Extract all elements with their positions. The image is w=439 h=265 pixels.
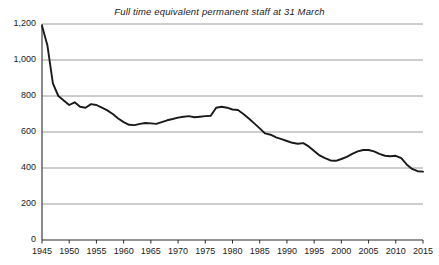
- x-tick-label-1975: 1975: [190, 246, 220, 256]
- gridlines: [42, 24, 423, 204]
- y-tick-label-1200: 1,200: [2, 18, 36, 28]
- x-tick-label-1970: 1970: [163, 246, 193, 256]
- y-tick-label-0: 0: [2, 234, 36, 244]
- x-tick-label-1995: 1995: [299, 246, 329, 256]
- x-tick-label-2010: 2010: [381, 246, 411, 256]
- data-series-group: [42, 26, 423, 172]
- x-tick-label-1985: 1985: [245, 246, 275, 256]
- series-line: [42, 26, 423, 172]
- y-tick-label-400: 400: [2, 162, 36, 172]
- plot-area: [0, 0, 439, 265]
- x-tick-label-1990: 1990: [272, 246, 302, 256]
- x-tick-label-2005: 2005: [354, 246, 384, 256]
- x-tick-label-1960: 1960: [109, 246, 139, 256]
- x-tick-label-1955: 1955: [81, 246, 111, 256]
- x-tick-label-1965: 1965: [136, 246, 166, 256]
- x-tick-label-2015: 2015: [408, 246, 438, 256]
- y-tick-label-600: 600: [2, 126, 36, 136]
- y-tick-label-800: 800: [2, 90, 36, 100]
- x-tick-label-2000: 2000: [326, 246, 356, 256]
- x-tick-label-1980: 1980: [218, 246, 248, 256]
- y-tick-label-1000: 1,000: [2, 54, 36, 64]
- x-tick-label-1945: 1945: [27, 246, 57, 256]
- y-tick-label-200: 200: [2, 198, 36, 208]
- x-tick-label-1950: 1950: [54, 246, 84, 256]
- chart-figure: Full time equivalent permanent staff at …: [0, 0, 439, 265]
